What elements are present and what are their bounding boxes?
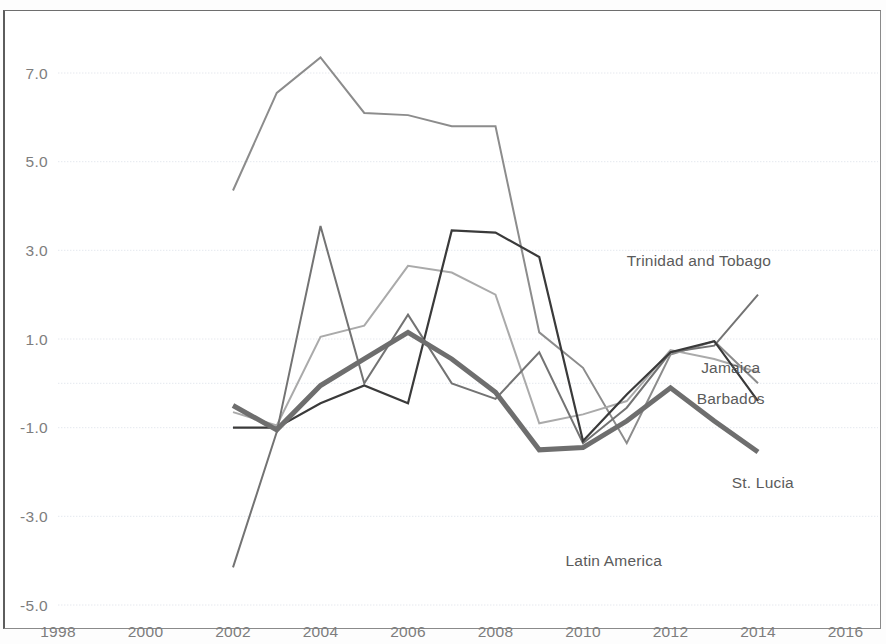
x-tick-label: 2004 (303, 623, 339, 640)
x-tick-label: 2016 (828, 623, 864, 640)
y-tick-label: 3.0 (26, 242, 49, 259)
gridlines-group (58, 73, 878, 605)
x-tick-label: 2014 (740, 623, 776, 640)
x-axis-tick-labels: 1998200020022004200620082010201220142016 (40, 623, 863, 640)
series-label: St. Lucia (732, 474, 794, 491)
line-chart-plot: 7.05.03.01.0-1.0-3.0-5.0 199820002002200… (0, 0, 886, 644)
y-tick-label: -1.0 (20, 419, 48, 436)
y-tick-label: 1.0 (26, 331, 49, 348)
chart-page: 7.05.03.01.0-1.0-3.0-5.0 199820002002200… (0, 0, 886, 644)
y-axis-tick-labels: 7.05.03.01.0-1.0-3.0-5.0 (20, 65, 48, 614)
series-label: Latin America (566, 552, 663, 569)
series-label: Trinidad and Tobago (627, 252, 771, 269)
series-inline-labels: Trinidad and TobagoJamaicaBarbadosSt. Lu… (566, 252, 795, 568)
x-tick-label: 2002 (215, 623, 251, 640)
y-tick-label: -3.0 (20, 508, 48, 525)
series-line (233, 266, 758, 426)
y-tick-label: 5.0 (26, 153, 49, 170)
x-tick-label: 2008 (478, 623, 514, 640)
x-tick-label: 2006 (390, 623, 426, 640)
series-label: Barbados (697, 390, 765, 407)
x-tick-label: 2000 (128, 623, 164, 640)
x-tick-label: 1998 (40, 623, 76, 640)
y-tick-label: -5.0 (20, 597, 48, 614)
series-label: Jamaica (701, 359, 760, 376)
y-tick-label: 7.0 (26, 65, 49, 82)
series-lines-group (233, 57, 758, 567)
x-tick-label: 2012 (653, 623, 689, 640)
x-tick-label: 2010 (565, 623, 601, 640)
